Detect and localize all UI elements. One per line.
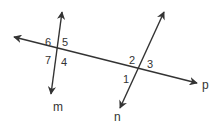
- angle-2-label: 2: [129, 54, 135, 66]
- angle-7-label: 7: [45, 54, 51, 66]
- angle-1-label: 1: [123, 73, 129, 85]
- angle-6-label: 6: [45, 36, 51, 48]
- line-n-label: n: [114, 110, 121, 123]
- line-m: [51, 12, 62, 94]
- line-n: [120, 12, 164, 108]
- angle-4-label: 4: [61, 56, 67, 68]
- line-p-label: p: [202, 78, 209, 92]
- angle-3-label: 3: [147, 58, 153, 70]
- diagram-canvas: 6 5 7 4 2 3 1 m n p: [0, 0, 220, 123]
- angle-5-label: 5: [62, 36, 68, 48]
- line-p: [14, 37, 197, 83]
- line-m-label: m: [53, 100, 63, 114]
